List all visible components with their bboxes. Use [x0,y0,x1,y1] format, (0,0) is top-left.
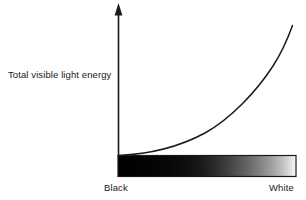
y-axis-arrow-icon [115,3,123,16]
y-axis-label: Total visible light energy [8,69,111,80]
black-to-white-gradient-bar [118,156,296,177]
x-axis-tick-label-black: Black [104,182,128,193]
data-curve-total-visible-light-energy [119,26,293,156]
chart-canvas [0,0,306,200]
x-axis-tick-label-white: White [269,182,294,193]
figure-container: Total visible light energy Black White [0,0,306,200]
